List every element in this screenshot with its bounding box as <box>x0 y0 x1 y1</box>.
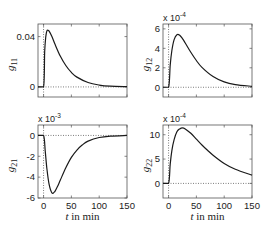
y-axis-label: g12 <box>139 58 154 72</box>
y-tick-label: 2 <box>155 62 160 73</box>
panel-g21: -6-4-20050100150x 10-3g21t in min <box>4 112 135 222</box>
y-tick-label: 10 <box>149 129 160 140</box>
y-axis-label: g22 <box>139 159 154 173</box>
figure: 00.04g110246x 10-4g12-6-4-20050100150x 1… <box>0 0 268 227</box>
x-tick-label: 150 <box>119 200 135 211</box>
axis-multiplier: x 10-4 <box>163 112 186 124</box>
panel-g11: 00.04g11 <box>4 24 127 97</box>
y-tick-label: -4 <box>27 171 35 182</box>
y-tick-label: -2 <box>27 151 35 162</box>
y-tick-label: -6 <box>27 192 35 203</box>
response-curve <box>38 135 127 193</box>
y-tick-label: 0 <box>155 178 160 189</box>
axis-multiplier: x 10-4 <box>163 11 186 23</box>
axis-multiplier: x 10-3 <box>38 112 61 124</box>
y-axis-label: g11 <box>4 58 19 71</box>
y-tick-label: 0 <box>30 130 35 141</box>
y-tick-label: 4 <box>155 43 160 54</box>
y-tick-label: 6 <box>155 23 160 34</box>
y-tick-label: 5 <box>155 153 160 164</box>
panel-g12: 0246x 10-4g12 <box>139 11 252 97</box>
x-axis-label: t in min <box>190 210 225 222</box>
x-tick-label: 150 <box>244 200 260 211</box>
y-tick-label: 0 <box>155 82 160 93</box>
y-tick-label: 0 <box>30 81 35 92</box>
panel-g22: 0510050100150x 10-4g22t in min <box>139 112 260 222</box>
response-curve <box>38 30 127 87</box>
y-tick-label: 0.04 <box>17 31 36 42</box>
x-axis-label: t in min <box>65 210 100 222</box>
response-curve <box>163 128 252 183</box>
response-curve <box>163 34 252 87</box>
axes-frame <box>163 125 252 198</box>
y-axis-label: g21 <box>4 159 19 173</box>
x-tick-label: 0 <box>41 200 46 211</box>
x-tick-label: 0 <box>166 200 171 211</box>
